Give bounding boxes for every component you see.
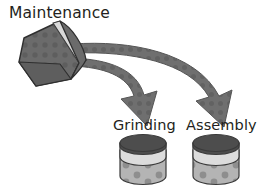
node-label-maintenance: Maintenance [9, 6, 110, 22]
arrow-maintenance-to-assembly [73, 43, 232, 127]
node-assembly-bin [193, 135, 239, 185]
node-label-grinding: Grinding [113, 118, 176, 133]
process-flow-diagram [0, 0, 272, 193]
node-label-assembly: Assembly [186, 118, 257, 133]
diagram-canvas: Maintenance Grinding Assembly [0, 0, 272, 193]
node-grinding-bin [120, 135, 166, 185]
arrow-maintenance-to-grinding [70, 58, 157, 126]
node-maintenance-cylinder [19, 21, 86, 86]
